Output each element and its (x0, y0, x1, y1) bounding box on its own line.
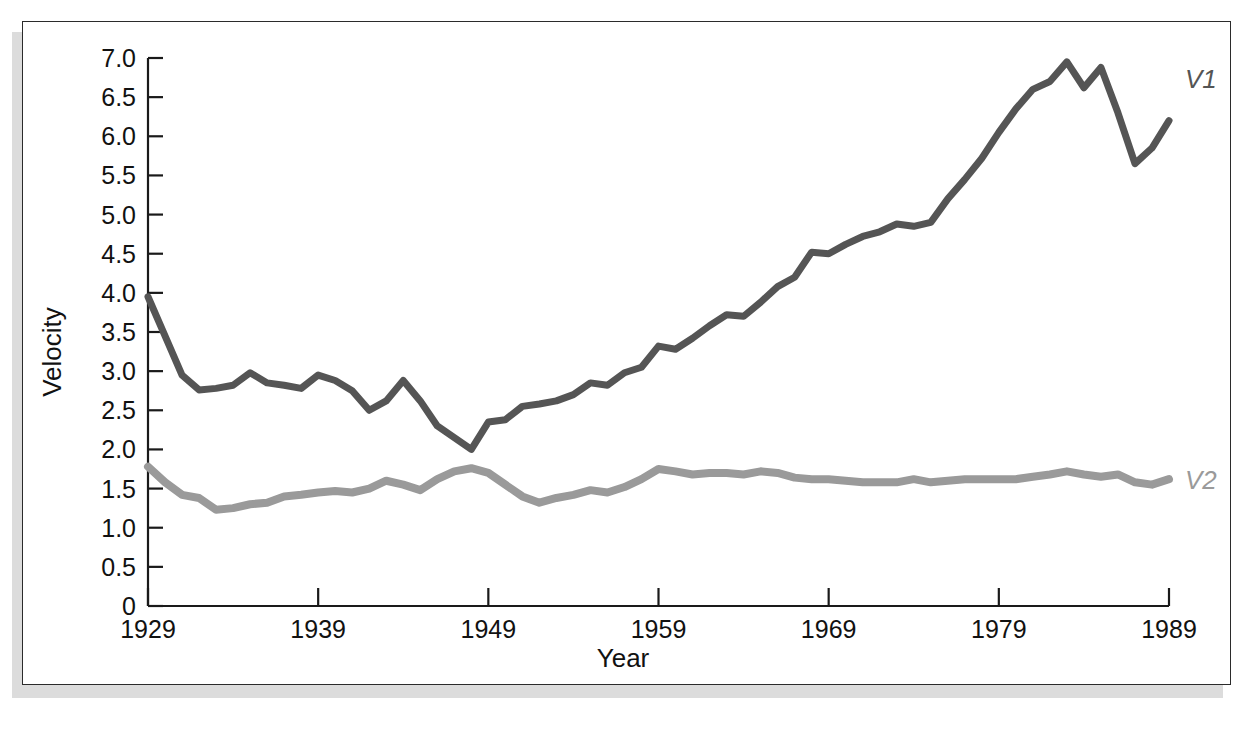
y-axis-title: Velocity (37, 307, 67, 397)
y-tick-label: 6.0 (101, 122, 136, 150)
y-tick-label: 5.0 (101, 201, 136, 229)
x-tick-label: 1929 (120, 615, 176, 643)
series-lines (148, 62, 1169, 510)
x-tick-label: 1969 (801, 615, 857, 643)
series-line-v1 (148, 62, 1169, 450)
y-tick-label: 3.0 (101, 357, 136, 385)
y-tick-label: 4.5 (101, 240, 136, 268)
velocity-line-chart: 00.51.01.52.02.53.03.54.04.55.05.56.06.5… (23, 22, 1232, 686)
x-tick-label: 1989 (1141, 615, 1197, 643)
x-axis-tick-labels: 1929193919491959196919791989 (120, 615, 1197, 643)
y-tick-label: 5.5 (101, 161, 136, 189)
y-tick-label: 2.0 (101, 435, 136, 463)
series-label-v1: V1 (1185, 64, 1217, 94)
y-tick-label: 0.5 (101, 553, 136, 581)
y-tick-label: 7.0 (101, 44, 136, 72)
series-line-v2 (148, 467, 1169, 510)
y-tick-label: 3.5 (101, 318, 136, 346)
x-axis-ticks (148, 588, 1169, 606)
x-tick-label: 1949 (461, 615, 517, 643)
x-tick-label: 1959 (631, 615, 687, 643)
y-tick-label: 4.0 (101, 279, 136, 307)
figure-frame: 00.51.01.52.02.53.03.54.04.55.05.56.06.5… (22, 21, 1231, 685)
x-tick-label: 1939 (290, 615, 346, 643)
x-axis-title: Year (597, 643, 650, 673)
y-axis-tick-labels: 00.51.01.52.02.53.03.54.04.55.05.56.06.5… (101, 44, 136, 620)
y-tick-label: 6.5 (101, 83, 136, 111)
y-tick-label: 1.0 (101, 514, 136, 542)
series-label-v2: V2 (1185, 465, 1217, 495)
y-tick-label: 2.5 (101, 396, 136, 424)
x-tick-label: 1979 (971, 615, 1027, 643)
y-tick-label: 1.5 (101, 475, 136, 503)
series-inline-labels: V1V2 (1185, 64, 1217, 496)
